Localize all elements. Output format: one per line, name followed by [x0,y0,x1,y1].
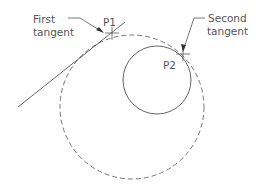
first-tangent-label-line1: First [33,13,55,25]
small-circle [123,46,191,114]
p2-label: P2 [163,59,176,71]
second-tangent-label-line1: Second [208,12,247,24]
tangent-diagram: First tangent P1 Second tangent P2 [0,0,266,187]
second-tangent-leader [181,18,205,52]
p1-label: P1 [103,16,116,28]
second-tangent-label-line2: tangent [207,25,248,37]
first-tangent-label-line2: tangent [33,26,74,38]
